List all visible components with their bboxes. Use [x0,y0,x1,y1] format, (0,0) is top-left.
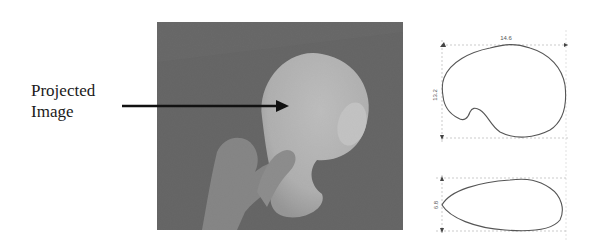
side-view-outline [442,179,562,230]
dim-arrow-icon [440,228,444,233]
dimension-diagram: 14.6 13.2 6.8 [420,20,594,240]
arrow-head-icon [276,100,289,112]
top-view-outline [442,45,565,137]
dim-arrow-icon [440,135,444,140]
dim-arrow-icon [440,176,444,181]
height-label: 13.2 [432,89,438,101]
dim-arrow-icon [440,42,446,47]
width-label: 14.6 [500,35,512,41]
thickness-label: 6.8 [433,200,439,209]
